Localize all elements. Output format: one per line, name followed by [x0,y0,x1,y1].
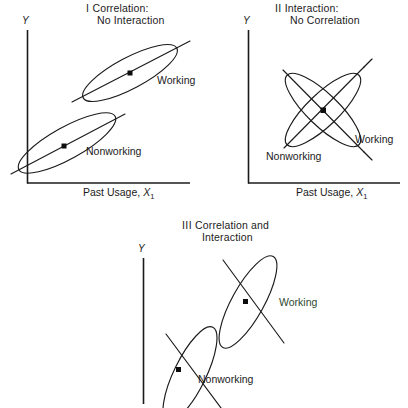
panel-1-numeral: I [86,2,89,14]
panel-2-nonworking-regression-tail [364,152,372,160]
panel-3-nonworking-label: Nonworking [198,373,253,385]
panel-3-nonworking-ellipse [153,320,227,408]
panel-2-x-axis-label-sub: 1 [363,192,367,201]
panel-2-title: II Interaction: No Correlation [275,2,360,27]
panel-1-x-axis-label: Past Usage, X1 [83,186,154,202]
panel-1-working-centroid [128,71,133,76]
panel-2-title-line2: No Correlation [290,14,360,26]
panel-2-y-axis-label: Y [243,15,250,27]
panel-1-title: I Correlation: No Interaction [86,2,164,27]
panel-3-title-line1: Correlation and [195,219,269,231]
panel-1-x-axis-label-text: Past Usage, [83,186,143,198]
panel-3-nonworking-centroid [176,367,181,372]
panel-1-working-ellipse-group [72,34,190,111]
panel-3-working-regression-line [223,260,284,343]
panel-1-nonworking-label: Nonworking [86,145,141,157]
panel-2-x-axis-label-text: Past Usage, [296,186,356,198]
panel-3-working-label: Working [279,296,317,308]
panel-1-graphic [11,30,190,184]
panel-2-numeral: II [275,2,282,14]
panel-3-nonworking-ellipse-group [153,320,227,408]
panel-3-y-axis-label: Y [138,243,145,255]
panel-2-x-axis-label: Past Usage, X1 [296,186,367,202]
panel-2-working-regression-tail [364,59,372,67]
panel-1-y-axis-label: Y [22,15,29,27]
figure-root: I Correlation: No Interaction Y Past Usa… [0,0,408,408]
panel-3-working-ellipse-group [209,249,287,355]
panel-1-title-line1: Correlation: [92,2,148,14]
panel-2-working-label: Working [355,133,393,145]
panel-1-title-line2: No Interaction [97,14,164,26]
panel-3-numeral: III [182,219,192,231]
panel-1-x-axis-label-sub: 1 [150,192,154,201]
panel-2-title-line1: Interaction: [285,2,339,14]
panel-3-working-centroid [243,299,248,304]
panel-2-nonworking-label: Nonworking [266,150,321,162]
panel-3-title: III Correlation and Interaction [182,219,269,244]
figure-vector-layer [0,0,408,408]
panel-2-shared-centroid [321,108,327,114]
panel-1-working-label: Working [157,74,195,86]
panel-1-nonworking-centroid [62,144,67,149]
panel-3-title-line2: Interaction [202,231,269,243]
